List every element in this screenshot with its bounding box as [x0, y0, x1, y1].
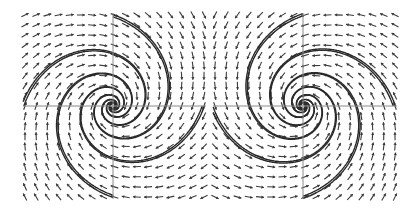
figure-canvas — [0, 0, 411, 216]
phase-portrait-figure — [0, 0, 411, 216]
left-phase-portrait — [21, 11, 207, 200]
axes — [213, 13, 397, 199]
right-phase-portrait — [211, 11, 398, 200]
axes — [23, 13, 206, 199]
